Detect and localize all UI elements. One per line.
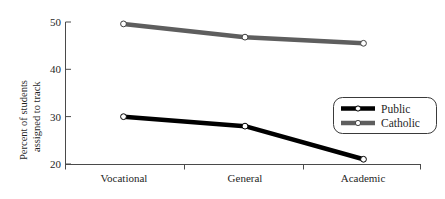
- y-axis-title-line-1: Percent of students: [18, 80, 29, 160]
- x-category-label-general: General: [228, 172, 263, 184]
- x-category-label-vocational: Vocational: [101, 172, 148, 184]
- series-layer: [121, 21, 367, 162]
- series-public: [121, 114, 367, 162]
- data-point-catholic-general: [242, 34, 248, 40]
- y-axis-title: Percent of students assigned to track: [18, 80, 42, 160]
- series-line-catholic: [124, 24, 364, 43]
- data-point-catholic-academic: [361, 40, 367, 46]
- data-point-catholic-vocational: [121, 21, 127, 27]
- y-axis: 50 40 30 20: [50, 16, 71, 170]
- series-line-public: [124, 117, 364, 160]
- data-point-public-academic: [361, 156, 367, 162]
- legend-label-public: Public: [381, 103, 410, 115]
- data-point-public-general: [242, 123, 248, 129]
- legend[interactable]: Public Catholic: [334, 98, 437, 134]
- line-chart: Percent of students assigned to track 50…: [0, 0, 445, 199]
- legend-swatch-public-marker: [355, 106, 360, 111]
- y-tick-label-20: 20: [50, 158, 62, 170]
- x-category-label-academic: Academic: [341, 172, 386, 184]
- x-axis: Vocational General Academic: [65, 165, 421, 185]
- data-point-public-vocational: [121, 114, 127, 120]
- legend-swatch-catholic-marker: [355, 120, 360, 125]
- y-tick-label-40: 40: [50, 63, 62, 75]
- y-tick-label-30: 30: [50, 111, 62, 123]
- chart-container: Percent of students assigned to track 50…: [0, 0, 445, 199]
- y-axis-title-line-2: assigned to track: [31, 81, 42, 152]
- legend-label-catholic: Catholic: [381, 117, 420, 129]
- y-tick-label-50: 50: [50, 16, 62, 28]
- series-catholic: [121, 21, 367, 46]
